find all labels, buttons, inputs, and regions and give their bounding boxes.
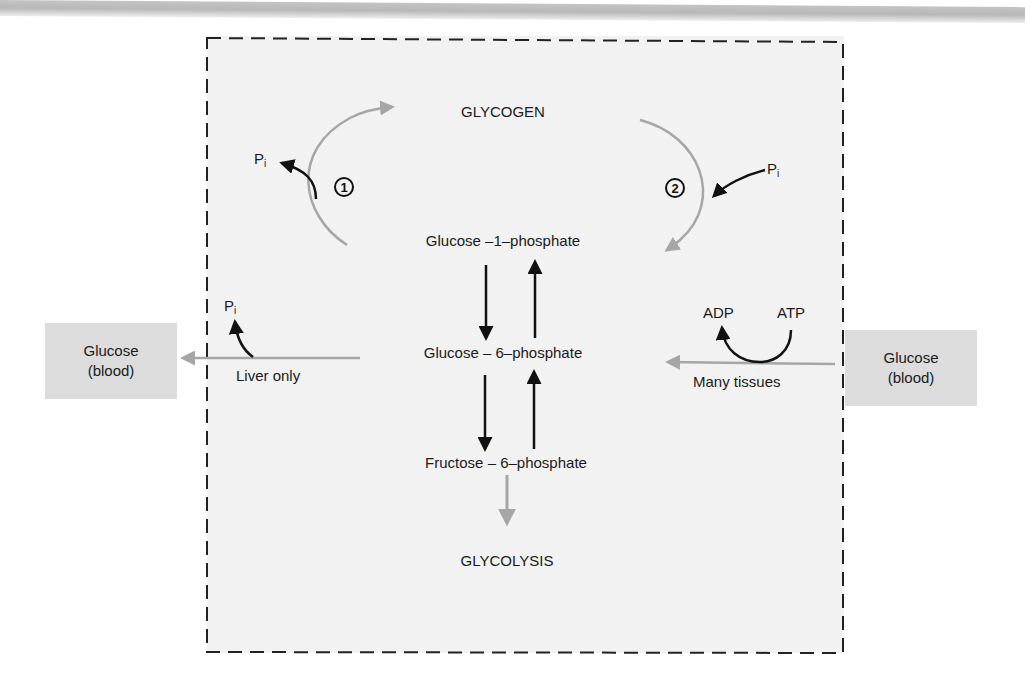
label-atp: ATP bbox=[777, 304, 805, 321]
node-glycolysis: GLYCOLYSIS bbox=[461, 552, 554, 569]
pi-text: P bbox=[254, 150, 264, 167]
label-many-tissues: Many tissues bbox=[693, 373, 781, 390]
pi-label-step2: Pi bbox=[767, 160, 779, 179]
pi-text: P bbox=[767, 160, 777, 177]
arc-step1 bbox=[308, 107, 392, 245]
pi-input-arrow-2 bbox=[714, 170, 765, 196]
node-fructose-6-phosphate: Fructose – 6–phosphate bbox=[425, 454, 587, 471]
node-glucose-blood-left: Glucose (blood) bbox=[45, 323, 177, 399]
pi-label-step1: Pi bbox=[254, 150, 266, 169]
step-1-badge: 1 bbox=[334, 177, 354, 197]
pi-subscript: i bbox=[777, 168, 779, 179]
label-liver-only: Liver only bbox=[236, 367, 300, 384]
pi-release-arrow-liver bbox=[235, 322, 253, 357]
blood-right-line1: Glucose bbox=[883, 348, 938, 368]
node-glucose-1-phosphate: Glucose –1–phosphate bbox=[426, 232, 580, 249]
step-2-badge: 2 bbox=[665, 178, 685, 198]
pi-label-liver: Pi bbox=[224, 297, 236, 316]
pi-subscript: i bbox=[234, 305, 236, 316]
blood-left-line2: (blood) bbox=[83, 361, 138, 381]
pi-text: P bbox=[224, 297, 234, 314]
node-glucose-6-phosphate: Glucose – 6–phosphate bbox=[424, 344, 582, 361]
blood-right-line2: (blood) bbox=[883, 368, 938, 388]
label-adp: ADP bbox=[703, 304, 734, 321]
node-glycogen: GLYCOGEN bbox=[461, 103, 545, 120]
atp-adp-arrow bbox=[722, 328, 791, 362]
node-glucose-blood-right: Glucose (blood) bbox=[845, 330, 977, 406]
blood-left-line1: Glucose bbox=[83, 341, 138, 361]
pi-subscript: i bbox=[264, 158, 266, 169]
